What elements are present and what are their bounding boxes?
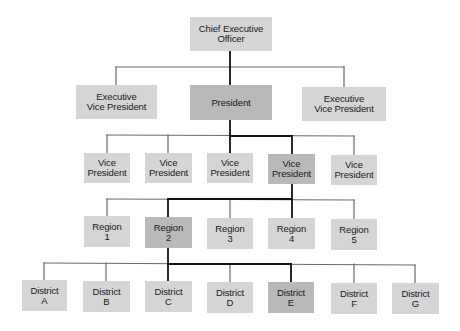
org-node-vp2: Vice President [145, 153, 192, 183]
org-node-dG: District G [392, 283, 439, 314]
org-node-label: Region 2 [154, 223, 184, 243]
org-node-vp1: Vice President [84, 153, 130, 183]
org-node-label: Region 3 [215, 224, 245, 244]
org-chart: Chief Executive OfficerExecutive Vice Pr… [0, 0, 460, 331]
org-node-r2: Region 2 [145, 217, 192, 248]
org-node-label: Region 5 [339, 225, 369, 245]
org-node-dD: District D [207, 282, 253, 313]
org-node-ceo: Chief Executive Officer [190, 17, 272, 51]
org-node-label: Vice President [87, 158, 126, 178]
org-node-evp1: Executive Vice President [76, 85, 157, 119]
org-node-label: Executive Vice President [87, 92, 147, 112]
org-node-label: Region 4 [277, 224, 307, 244]
org-node-r3: Region 3 [207, 218, 253, 249]
org-node-r4: Region 4 [268, 218, 315, 249]
org-node-dA: District A [22, 280, 67, 311]
org-node-vp5: Vice President [331, 155, 377, 185]
org-node-label: District B [92, 287, 120, 307]
org-node-label: District A [30, 286, 58, 306]
org-node-vp4: Vice President [268, 154, 315, 184]
org-node-label: Vice President [149, 158, 188, 178]
org-node-r1: Region 1 [84, 216, 130, 247]
org-node-pres: President [190, 85, 272, 120]
org-node-dC: District C [145, 281, 192, 312]
org-node-label: District G [401, 289, 429, 309]
org-node-dE: District E [268, 282, 314, 313]
org-node-label: Vice President [334, 160, 373, 180]
org-node-label: District E [277, 288, 305, 308]
org-node-evp2: Executive Vice President [302, 87, 386, 121]
org-node-label: District C [154, 287, 182, 307]
org-node-r5: Region 5 [331, 219, 377, 250]
org-node-vp3: Vice President [207, 153, 253, 183]
org-node-label: President [211, 98, 250, 108]
org-node-dB: District B [83, 281, 130, 312]
org-node-label: District D [216, 288, 244, 308]
org-node-label: District F [340, 289, 368, 309]
org-node-dF: District F [331, 283, 377, 314]
org-node-label: Chief Executive Officer [199, 24, 264, 44]
org-node-label: Vice President [272, 159, 311, 179]
org-node-label: Region 1 [92, 222, 122, 242]
org-node-label: Executive Vice President [314, 94, 374, 114]
org-node-label: Vice President [210, 158, 249, 178]
